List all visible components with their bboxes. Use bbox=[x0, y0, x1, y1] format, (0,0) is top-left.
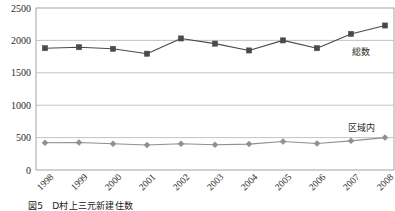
data-point bbox=[382, 23, 387, 28]
data-point bbox=[348, 31, 353, 36]
data-point bbox=[314, 46, 319, 51]
xtick-label-2004: 2004 bbox=[239, 172, 260, 193]
data-point bbox=[178, 36, 183, 41]
ytick-label: 2500 bbox=[11, 3, 31, 14]
xtick-label-2003: 2003 bbox=[205, 172, 226, 193]
series-label-total: 総数 bbox=[352, 46, 370, 57]
ytick-label: 0 bbox=[26, 165, 31, 176]
ytick-label: 1000 bbox=[11, 100, 31, 111]
xtick-label-2000: 2000 bbox=[103, 172, 124, 193]
xtick-label-2005: 2005 bbox=[273, 172, 294, 193]
series-label-region: 区域内 bbox=[348, 122, 375, 133]
figure-caption: 図5 D村上三元新建住数 bbox=[28, 199, 133, 211]
data-point bbox=[144, 51, 149, 56]
ytick-label: 1500 bbox=[11, 67, 31, 78]
ytick-label: 2000 bbox=[11, 35, 31, 46]
xtick-label-1998: 1998 bbox=[35, 172, 56, 193]
data-point bbox=[42, 46, 47, 51]
data-point bbox=[110, 46, 115, 51]
data-point bbox=[76, 45, 81, 50]
ytick-label: 500 bbox=[16, 132, 31, 143]
data-point bbox=[246, 48, 251, 53]
xtick-label-2002: 2002 bbox=[171, 172, 192, 193]
figure-container: 0500100015002000250019981999200020012002… bbox=[0, 0, 395, 211]
xtick-label-1999: 1999 bbox=[69, 172, 90, 193]
xtick-label-2008: 2008 bbox=[375, 172, 395, 193]
data-point bbox=[280, 38, 285, 43]
xtick-label-2001: 2001 bbox=[137, 172, 158, 193]
data-point bbox=[212, 41, 217, 46]
xtick-label-2006: 2006 bbox=[307, 172, 328, 193]
xtick-label-2007: 2007 bbox=[341, 172, 362, 193]
line-chart: 0500100015002000250019981999200020012002… bbox=[0, 0, 395, 211]
